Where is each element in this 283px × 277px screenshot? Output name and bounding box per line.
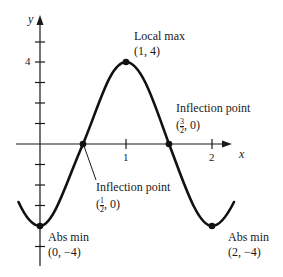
- local-max-coords: (1, 4): [134, 45, 160, 58]
- inflection-right-coords: (32, 0): [176, 118, 200, 135]
- y-tick-label-4: 4: [25, 55, 31, 67]
- inflection-right-label: Inflection point: [176, 102, 250, 115]
- abs-min-left-label: Abs min: [48, 231, 89, 244]
- y-axis-arrow-icon: [37, 15, 44, 25]
- x-axis-arrow-icon: [222, 141, 232, 148]
- inflection-point-right: [166, 141, 173, 148]
- abs-min-right-label: Abs min: [228, 231, 269, 244]
- x-axis-label: x: [239, 148, 244, 161]
- coords-tail: , 0): [104, 197, 120, 211]
- inflection-left-label: Inflection point: [96, 181, 170, 194]
- abs-min-right-coords: (2, −4): [228, 246, 261, 259]
- local-max-point: [123, 59, 130, 66]
- abs-min-left-coords: (0, −4): [48, 246, 81, 259]
- x-tick-label-2: 2: [209, 151, 215, 163]
- abs-min-point-right: [209, 223, 216, 230]
- abs-min-point-left: [37, 223, 44, 230]
- inflection-left-leader: [84, 146, 96, 180]
- x-tick-label-1: 1: [123, 151, 129, 163]
- local-max-label: Local max: [134, 30, 185, 43]
- coords-tail: , 0): [184, 118, 200, 132]
- y-axis-label: y: [28, 13, 33, 26]
- inflection-left-coords: (12, 0): [96, 197, 120, 214]
- inflection-point-left: [80, 141, 87, 148]
